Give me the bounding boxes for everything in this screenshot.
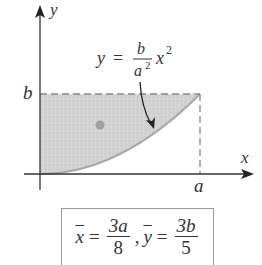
y-bar-denominator: 5 — [181, 237, 191, 259]
svg-text:y: y — [95, 48, 105, 68]
equals-sign: = — [89, 226, 100, 248]
y-bar-numerator: 3b — [175, 216, 198, 237]
centroid-formula: x = 3a 8 , y = 3b 5 — [62, 209, 213, 265]
x-bar: x — [75, 226, 83, 248]
svg-text:2: 2 — [145, 59, 151, 71]
svg-text:b: b — [137, 40, 145, 57]
svg-text:a: a — [134, 62, 142, 79]
y-axis-label: y — [48, 0, 58, 19]
centroid-diagram: y x b a y = b a 2 x 2 — [0, 0, 262, 205]
shaded-region — [40, 94, 200, 174]
x-bar-denominator: 8 — [113, 237, 123, 259]
x-axis-label: x — [240, 148, 249, 167]
svg-text:=: = — [113, 48, 123, 68]
x-bar-numerator: 3a — [107, 216, 130, 237]
tick-label-b: b — [23, 82, 33, 103]
equals-sign: = — [157, 226, 168, 248]
tick-label-a: a — [194, 175, 204, 196]
svg-text:2: 2 — [166, 43, 172, 57]
y-bar: y — [143, 226, 151, 248]
y-bar-fraction: 3b 5 — [175, 216, 198, 259]
centroid-dot — [96, 121, 105, 130]
centroid-formula-box: x = 3a 8 , y = 3b 5 — [61, 208, 214, 265]
x-bar-fraction: 3a 8 — [107, 216, 130, 259]
comma: , — [135, 226, 140, 248]
curve-equation-label: y = b a 2 x 2 — [95, 40, 172, 79]
svg-text:x: x — [155, 48, 164, 68]
